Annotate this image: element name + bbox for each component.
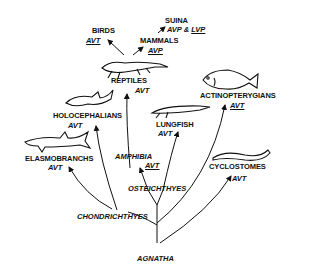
- taxon-holocephalians-hormone: AVT: [68, 122, 82, 130]
- branch-suina: [158, 27, 165, 33]
- taxon-mammals-label: MAMMALS: [140, 37, 178, 45]
- taxon-actinopterygians-hormone: AVT: [230, 102, 244, 110]
- taxon-cyclostomes-label: CYCLOSTOMES: [209, 163, 266, 171]
- taxon-amphibia-label: AMPHIBIA: [115, 153, 152, 161]
- branch-osteichthyes-label: OSTEICHTHYES: [128, 185, 186, 193]
- branch-chondrichthyes-label: CHONDRICHTHYES: [77, 213, 148, 221]
- holocephalian-illustration: [66, 90, 113, 106]
- lungfish-illustration: [152, 106, 210, 118]
- taxon-reptiles-label: REPTILES: [111, 77, 147, 85]
- elasmobranch-illustration: [25, 132, 90, 152]
- cyclostome-illustration: [213, 150, 270, 160]
- taxon-lungfish-label: LUNGFISH: [156, 121, 194, 129]
- root-agnatha-label: AGNATHA: [137, 255, 174, 263]
- branch-mammals: [133, 47, 143, 55]
- taxon-birds-label: BIRDS: [92, 27, 115, 35]
- taxon-actinopterygians-label: ACTINOPTERYGIANS: [200, 92, 276, 100]
- taxon-amphibia-hormone: AVT: [145, 162, 159, 170]
- taxon-holocephalians-label: HOLOCEPHALIANS: [53, 112, 122, 120]
- branch-holocephalians: [96, 126, 117, 210]
- branch-birds: [108, 40, 124, 55]
- taxon-reptiles-hormone: AVT: [135, 87, 149, 95]
- taxon-suina-label: SUINA: [165, 17, 188, 25]
- taxon-lungfish-hormone: AVT: [158, 130, 172, 138]
- branch-lungfish: [163, 132, 178, 190]
- taxon-elasmobranchs-hormone: AVT: [48, 164, 62, 172]
- actinopterygian-illustration: [203, 70, 258, 89]
- taxon-birds-hormone: AVT: [86, 37, 100, 45]
- taxon-mammals-hormone: AVP: [148, 47, 163, 55]
- taxon-elasmobranchs-label: ELASMOBRANCHS: [25, 155, 93, 163]
- taxon-cyclostomes-hormone: AVT: [232, 175, 246, 183]
- taxon-suina-hormone: AVP & LVP: [167, 26, 205, 34]
